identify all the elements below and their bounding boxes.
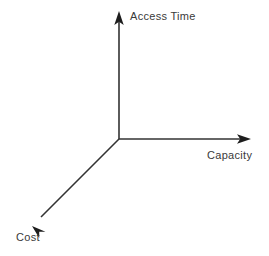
arrowhead-group [30,11,251,238]
axis-label-capacity: Capacity [207,150,252,161]
axis-label-cost: Cost [16,232,40,243]
axis-label-access-time: Access Time [130,11,196,22]
diagram-canvas: Access Time Capacity Cost [0,0,269,256]
axes-diagram [0,0,269,256]
axis-line-group [41,22,240,217]
cost-axis-line [41,139,119,217]
